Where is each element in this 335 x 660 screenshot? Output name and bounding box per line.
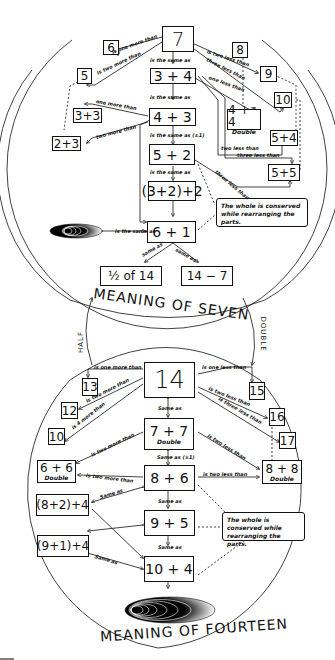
expr-text: 4 + 4: [228, 104, 260, 128]
double-label: DOUBLE: [259, 316, 267, 351]
dot-pattern-seven: [50, 224, 102, 238]
label-one-more-14: is one more than: [94, 364, 142, 370]
expr-text: 8 + 8: [266, 463, 299, 475]
expr-9-plus-1-plus-4: (9+1)+4: [37, 535, 89, 557]
expr-5-plus-5: 5+5: [268, 164, 300, 181]
label-same-2-14: Same as (±1): [157, 454, 195, 460]
node-17: 17: [279, 432, 296, 449]
label-same-2: is the same as: [150, 94, 191, 100]
conservation-note-seven: The whole is conserved while rearranging…: [216, 198, 308, 227]
label-one-less-14: is one less than: [202, 364, 246, 370]
node-14: 14: [144, 362, 195, 398]
half-label: HALF: [77, 331, 85, 353]
expr-14-minus-7: 14 − 7: [181, 266, 233, 286]
double-label: Double: [232, 129, 256, 135]
label-same-4-14: Same as: [158, 544, 182, 550]
node-15: 15: [249, 382, 265, 400]
double-label: Double: [157, 439, 181, 445]
node-7: 7: [162, 26, 194, 52]
double-label: Double: [45, 475, 69, 481]
expr-5-plus-4: 5+4: [270, 130, 298, 146]
label-same-3: is the same as (±1): [150, 132, 205, 138]
label-two-less-54: two less than: [221, 145, 259, 151]
expr-9-plus-5: 9 + 5: [144, 510, 195, 536]
expr-text: 7 + 7: [150, 424, 188, 438]
expr-8-plus-2-plus-4: (8+2)+4: [36, 494, 89, 516]
expr-text: 6 + 6: [40, 462, 73, 474]
node-16: 16: [269, 408, 285, 426]
label-same-4: is the same as: [150, 169, 191, 175]
node-5: 5: [77, 68, 92, 84]
expr-8-plus-6: 8 + 6: [144, 465, 195, 491]
node-9: 9: [260, 66, 277, 82]
node-10b: 10: [48, 428, 65, 445]
node-10: 10: [274, 92, 292, 108]
double-label: Double: [270, 476, 294, 482]
expr-4-plus-3: 4 + 3: [149, 108, 196, 126]
expr-3-plus-2-plus-2: (3+2)+2: [148, 181, 196, 201]
expr-8-plus-8-double: 8 + 8Double: [262, 460, 302, 484]
expr-7-plus-7-double: 7 + 7Double: [144, 418, 194, 450]
expr-3-plus-3: 3+3: [73, 108, 102, 123]
expr-3-plus-4: 3 + 4: [150, 68, 196, 84]
node-12: 12: [61, 402, 78, 419]
label-same-dots: is the same as: [115, 228, 156, 234]
expr-2-plus-3: 2+3: [52, 136, 81, 151]
label-same-1-14: Same as: [158, 405, 182, 411]
label-three-less-55a: three less than: [237, 152, 280, 158]
expr-4-plus-4-double: 4 + 4Double: [227, 109, 261, 130]
label-same-1: is the same as: [150, 57, 191, 63]
expr-10-plus-4: 10 + 4: [144, 556, 194, 582]
dot-pattern-fourteen: [125, 597, 215, 623]
label-two-less-86: is two less than: [203, 471, 247, 477]
conservation-note-fourteen: The whole is conserved while rearranging…: [222, 512, 305, 541]
node-8: 8: [232, 42, 248, 58]
half-of-14: ½ of 14: [100, 266, 162, 286]
label-same-3-14: Same as: [158, 498, 182, 504]
expr-6-plus-6-double: 6 + 6Double: [37, 460, 76, 483]
expr-5-plus-2: 5 + 2: [149, 144, 195, 165]
